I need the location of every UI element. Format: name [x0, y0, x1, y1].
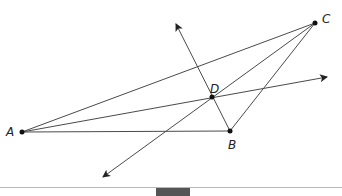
ray-A-through-D: [22, 77, 327, 132]
segment-AC: [22, 23, 315, 132]
label-C: C: [322, 13, 330, 25]
bottom-tab: [156, 188, 190, 196]
geometry-diagram: [0, 0, 342, 196]
label-D: D: [210, 83, 219, 95]
point-B: [228, 129, 233, 134]
ray-C-through-D: [103, 23, 315, 177]
ray-B-through-D: [176, 24, 230, 131]
point-A: [20, 130, 25, 135]
label-A: A: [6, 126, 14, 138]
segment-AB: [22, 131, 230, 132]
point-C: [313, 21, 318, 26]
label-B: B: [228, 139, 236, 151]
